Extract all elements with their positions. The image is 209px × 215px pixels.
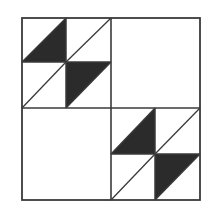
diagonal-line: [66, 18, 111, 62]
diagonal-line: [111, 154, 155, 200]
diagonal-line: [155, 108, 200, 154]
upper-left-pinwheel-block: [22, 18, 111, 108]
quilt-diagram: [0, 0, 209, 215]
diagonal-line: [22, 62, 66, 108]
lower-right-pinwheel-block: [111, 108, 200, 200]
